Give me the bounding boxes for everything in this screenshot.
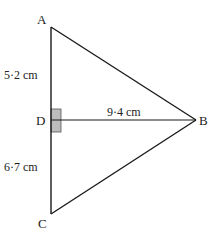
vertex-label-a: A [37,12,47,27]
vertex-label-d: D [36,113,45,128]
vertex-label-b: B [199,113,208,128]
measurement-ad: 5·2 cm [4,68,38,82]
side-cb [51,120,196,214]
triangle-diagram: A D B C 5·2 cm 9·4 cm 6·7 cm [0,0,219,239]
measurement-db: 9·4 cm [107,105,141,119]
vertex-label-c: C [38,216,47,231]
measurement-dc: 6·7 cm [4,160,38,174]
